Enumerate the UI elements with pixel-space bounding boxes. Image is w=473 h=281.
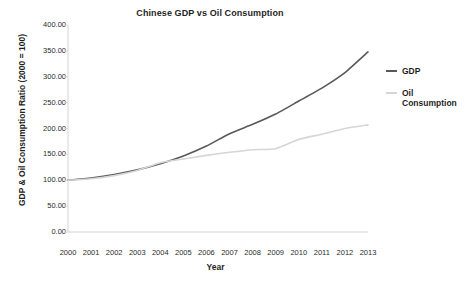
chart-container: Chinese GDP vs Oil Consumption GDP & Oil… <box>0 0 473 281</box>
legend-entry[interactable]: Oil Consumption <box>386 88 472 109</box>
plot-area <box>0 0 473 281</box>
series-line-oil-consumption <box>68 125 368 180</box>
chart-legend: GDPOil Consumption <box>386 66 472 120</box>
legend-swatch-icon <box>386 92 397 94</box>
legend-label: Oil Consumption <box>402 88 468 109</box>
x-tick-label: 2013 <box>353 248 383 257</box>
legend-entry[interactable]: GDP <box>386 66 472 77</box>
axis-lines <box>68 25 368 232</box>
legend-label: GDP <box>402 66 420 77</box>
series-line-gdp <box>68 52 368 180</box>
legend-swatch-icon <box>386 70 397 72</box>
series-lines <box>68 52 368 180</box>
x-axis-title: Year <box>68 262 363 272</box>
